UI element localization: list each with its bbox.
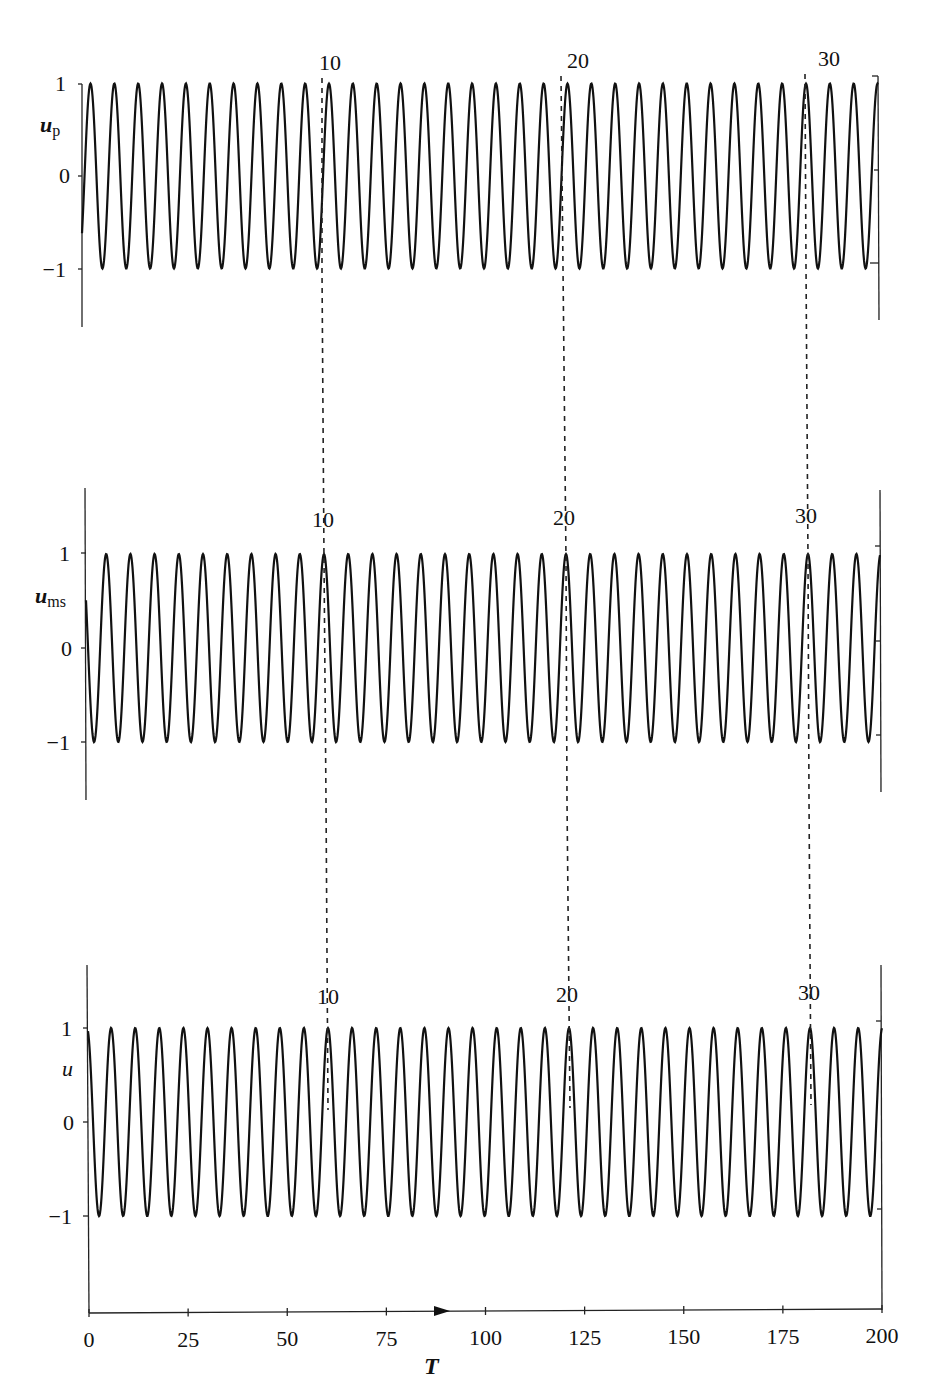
curve-u-ms [86,554,880,742]
peak-connectors [322,74,811,1110]
y-tick-label-top-m1: −1 [43,257,66,282]
x-tick-label-200: 200 [866,1323,899,1348]
y-tick-label-bottom-1: 1 [61,1016,72,1041]
x-axis-arrow-icon [434,1306,450,1316]
x-tick-label-100: 100 [469,1325,502,1350]
peak-label-top-20: 20 [567,48,589,73]
connector-peak-30 [805,74,811,1105]
panel-top: 1 0 −1 up 10 20 30 [40,46,879,327]
x-axis-label: T [424,1353,440,1379]
x-tick-label-75: 75 [375,1326,397,1351]
y-tick-label-middle-m1: −1 [47,730,70,755]
y-tick-label-middle-0: 0 [61,636,72,661]
panel-middle: 1 0 −1 ums 10 20 30 [35,488,881,800]
y-tick-label-bottom-m1: −1 [49,1204,72,1229]
y-label-middle: ums [35,583,66,610]
y-label-top: up [40,112,60,140]
y-tick-label-middle-1: 1 [59,541,70,566]
y-label-bottom: u [62,1056,73,1081]
x-tick-label-25: 25 [177,1327,199,1352]
y-axis-middle [85,488,86,800]
peak-label-bottom-10: 10 [317,984,339,1009]
figure: 1 0 −1 up 10 20 30 1 0 −1 ums 10 20 30 [0,0,932,1393]
curve-u-p [82,84,878,269]
curve-u [88,1028,882,1216]
x-tick-label-50: 50 [276,1326,298,1351]
x-tick-label-150: 150 [667,1324,700,1349]
peak-label-middle-30: 30 [795,503,817,528]
y-axis-bottom [87,965,89,1313]
peak-label-top-30: 30 [818,46,840,71]
right-frame-bottom [881,965,882,1310]
y-tick-label-bottom-0: 0 [63,1110,74,1135]
right-frame-top [878,76,879,320]
y-tick-label-top-0: 0 [59,163,70,188]
x-tick-label-0: 0 [84,1327,95,1352]
x-tick-label-125: 125 [568,1325,601,1350]
y-tick-label-top-1: 1 [55,71,66,96]
panel-bottom: 1 0 −1 u 10 20 30 0255075100125150175200… [49,965,899,1379]
peak-label-top-10: 10 [319,50,341,75]
peak-label-bottom-30: 30 [798,980,820,1005]
peak-label-middle-20: 20 [553,505,575,530]
x-tick-label-175: 175 [766,1324,799,1349]
peak-label-bottom-20: 20 [556,982,578,1007]
